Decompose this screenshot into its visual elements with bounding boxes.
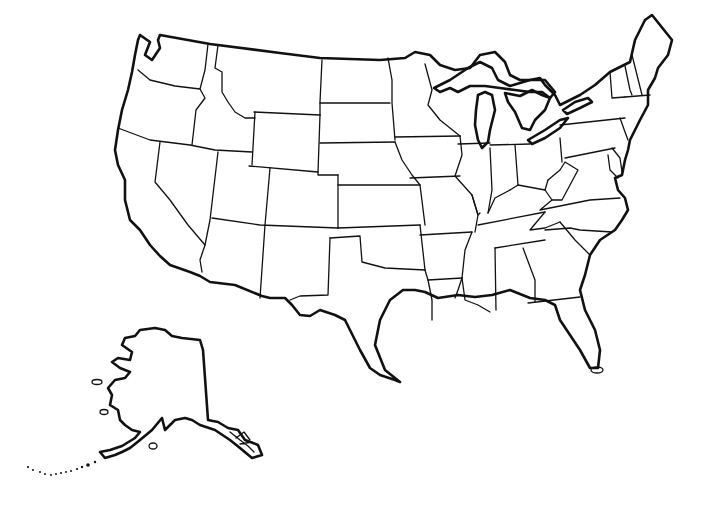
great-lakes — [434, 62, 592, 148]
alaska — [27, 328, 262, 476]
us-outline-map — [0, 0, 710, 510]
island — [100, 410, 108, 415]
contiguous-us — [115, 15, 672, 382]
lake-huron — [505, 90, 550, 130]
lake-michigan — [475, 92, 495, 148]
island — [149, 443, 157, 449]
aleutian-islands — [27, 461, 96, 476]
island — [92, 380, 102, 385]
national-border — [115, 15, 672, 382]
state-borders — [118, 44, 650, 320]
